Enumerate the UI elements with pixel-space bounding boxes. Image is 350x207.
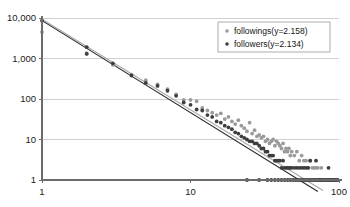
data-point [130, 74, 134, 78]
data-point [308, 159, 312, 163]
y-tick-label: 10 [25, 134, 36, 145]
data-point [245, 129, 249, 133]
data-point [266, 150, 270, 154]
data-point [316, 166, 320, 170]
data-point [200, 109, 204, 113]
data-point [280, 147, 284, 151]
data-point [281, 159, 285, 163]
data-point [195, 108, 199, 112]
data-point [215, 119, 219, 123]
data-point [166, 89, 170, 93]
data-point [281, 142, 285, 146]
data-point [223, 117, 227, 121]
data-point [182, 101, 186, 105]
data-point [210, 115, 214, 119]
data-point [239, 124, 243, 128]
data-point [314, 159, 318, 163]
data-point [253, 128, 257, 132]
data-point [85, 45, 89, 49]
data-point [206, 109, 210, 113]
data-point [273, 144, 277, 148]
data-point [327, 166, 331, 170]
scatter-chart: 1101001,00010,000 110100 followings(y=2.… [0, 0, 350, 207]
data-point [262, 134, 266, 138]
data-point [300, 154, 304, 158]
y-tick-label: 1,000 [12, 53, 36, 64]
legend-label-0: followings(y=2.158) [234, 26, 308, 36]
x-tick-label: 1 [39, 186, 44, 197]
data-point [189, 98, 193, 102]
x-tick-label: 10 [185, 186, 196, 197]
data-point [297, 159, 301, 163]
data-point [85, 52, 89, 56]
data-point [250, 132, 254, 136]
y-axis-labels: 1101001,00010,000 [7, 12, 36, 185]
data-point [271, 154, 275, 158]
data-point [295, 150, 299, 154]
data-point [223, 124, 227, 128]
data-point [287, 147, 291, 151]
data-point [262, 147, 266, 151]
data-point [219, 121, 223, 125]
data-point [236, 118, 240, 122]
data-point [219, 112, 223, 116]
legend-label-1: followers(y=2.134) [234, 39, 304, 49]
data-point [319, 166, 323, 170]
data-point [210, 111, 214, 115]
data-point [292, 154, 296, 158]
data-point [230, 127, 234, 131]
data-point [288, 154, 292, 158]
data-point [227, 125, 231, 129]
chart-legend: followings(y=2.158)followers(y=2.134) [218, 22, 330, 52]
data-point [156, 84, 160, 88]
data-point [290, 150, 294, 154]
data-point [189, 103, 193, 107]
data-point [227, 115, 231, 119]
chart-canvas: 1101001,00010,000 110100 followings(y=2.… [0, 0, 350, 207]
data-point [236, 132, 240, 136]
data-point [215, 113, 219, 117]
data-point [248, 121, 252, 125]
data-point [233, 122, 237, 126]
data-point [144, 81, 148, 85]
data-point [174, 94, 178, 98]
data-point [271, 138, 275, 142]
legend-marker-0 [225, 29, 229, 33]
y-tick-label: 1 [31, 174, 36, 185]
data-point [230, 119, 234, 123]
data-point [206, 113, 210, 117]
data-point [111, 61, 115, 65]
data-point [242, 126, 246, 130]
data-point [304, 159, 308, 163]
x-axis-labels: 110100 [39, 186, 347, 197]
x-tick-label: 100 [331, 186, 347, 197]
data-point [306, 166, 310, 170]
y-tick-label: 100 [20, 93, 36, 104]
legend-marker-1 [225, 42, 229, 46]
data-point [266, 138, 270, 142]
y-tick-label: 10,000 [7, 12, 36, 23]
data-point [195, 99, 199, 103]
